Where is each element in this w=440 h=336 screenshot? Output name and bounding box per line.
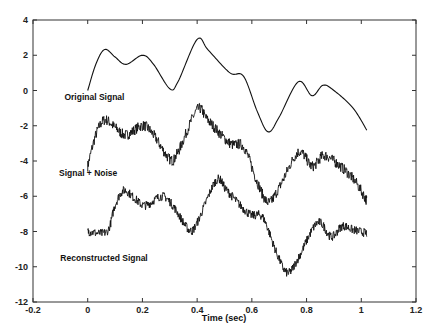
- x-tick-label: 0.8: [300, 305, 313, 315]
- x-tick-label: 1: [359, 305, 364, 315]
- signal-noise-label: Signal + Noise: [59, 168, 118, 178]
- y-tick-label: -4: [20, 156, 28, 166]
- series-lines: [88, 38, 367, 276]
- y-tick-label: 0: [23, 86, 28, 96]
- original-signal-label: Original Signal: [64, 92, 124, 102]
- y-tick-label: 4: [23, 15, 28, 25]
- x-tick-label: 0.2: [136, 305, 149, 315]
- y-tick-label: -2: [20, 121, 28, 131]
- reconstructed-signal-label: Reconstructed Signal: [60, 253, 147, 263]
- x-tick-label: 0: [85, 305, 90, 315]
- original-signal-line: [88, 38, 367, 132]
- x-tick-label: 1.2: [410, 305, 423, 315]
- x-axis-title: Time (sec): [202, 313, 246, 323]
- line-chart: -0.200.20.40.60.811.2 420-2-4-6-8-10-12 …: [0, 0, 440, 336]
- x-tick-label: 0.6: [246, 305, 259, 315]
- y-tick-label: -6: [20, 191, 28, 201]
- y-tick-label: -8: [20, 227, 28, 237]
- y-tick-label: -10: [15, 262, 28, 272]
- y-tick-label: 2: [23, 50, 28, 60]
- y-tick-label: -12: [15, 297, 28, 307]
